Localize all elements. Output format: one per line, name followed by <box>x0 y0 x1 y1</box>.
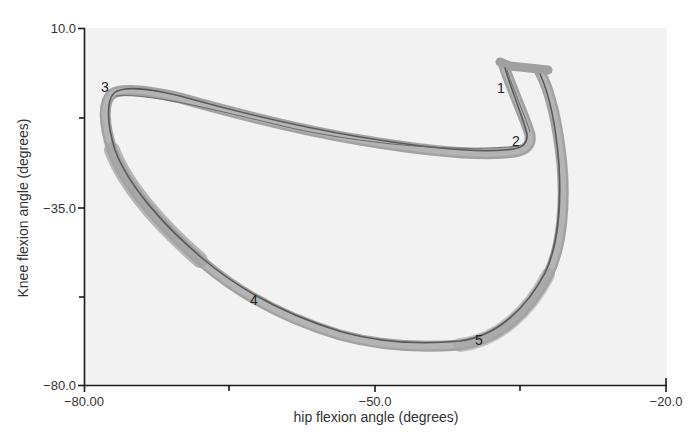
figure-caption-truncated <box>8 437 698 447</box>
x-axis-title: hip flexion angle (degrees) <box>294 409 459 425</box>
point-label-5: 5 <box>475 332 483 348</box>
y-axis-title: Knee flexion angle (degrees) <box>15 118 31 297</box>
plot-panel <box>85 28 667 385</box>
x-tick-label-left: −80.00 <box>64 394 104 409</box>
hip-knee-chart: 10.0 −35.0 −80.0 −80.00 −50.0 −20.0 hip … <box>0 0 698 447</box>
x-tick-label-right: −20.0 <box>650 394 683 409</box>
point-label-3: 3 <box>101 79 109 95</box>
point-label-1: 1 <box>497 80 505 96</box>
x-tick-label-mid: −50.0 <box>359 394 392 409</box>
point-label-2: 2 <box>512 133 520 149</box>
point-label-4: 4 <box>250 292 258 308</box>
y-tick-label-top: 10.0 <box>51 21 76 36</box>
y-tick-label-mid: −35.0 <box>43 201 76 216</box>
y-tick-label-bottom: −80.0 <box>43 378 76 393</box>
